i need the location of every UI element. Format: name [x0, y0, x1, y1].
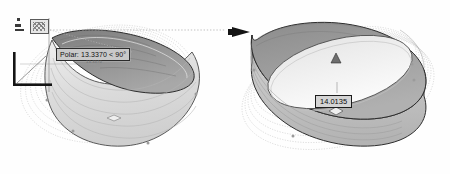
direction-arrow-icon[interactable] [228, 27, 250, 37]
ucs-diagonal-axis [16, 56, 46, 84]
drawing-canvas[interactable] [0, 0, 450, 174]
snap-dot-bar [15, 29, 24, 31]
object-snap-marker[interactable] [30, 19, 49, 34]
dimension-input-box[interactable]: 14.0135 [315, 95, 352, 108]
snap-dot-medium [15, 24, 21, 27]
right-panel-group[interactable] [228, 12, 446, 168]
object-snap-marker-group[interactable] [15, 17, 53, 39]
snap-dot-small [17, 18, 20, 21]
cad-viewport[interactable]: Polar: 13.3370 < 90° 13.3370 14.0135 [0, 0, 450, 174]
polar-tracking-subtext: 13.3370 [86, 59, 102, 64]
snap-marker-glyph [33, 22, 45, 31]
